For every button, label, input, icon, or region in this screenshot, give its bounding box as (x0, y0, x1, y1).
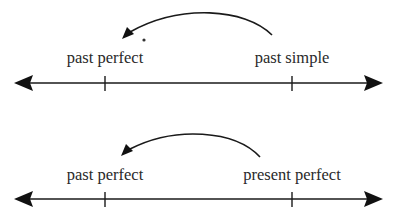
backshift-arrow-curve (130, 134, 260, 157)
label-past-perfect: past perfect (67, 165, 144, 184)
timeline-bottom: past perfect present perfect (14, 134, 383, 207)
stray-mark (142, 38, 145, 41)
backshift-arrowhead-icon (121, 144, 133, 156)
timeline-top: past perfect past simple (14, 13, 383, 91)
tense-timeline-diagrams: past perfect past simple past perfect pr… (0, 0, 399, 216)
label-past-perfect: past perfect (67, 48, 144, 67)
backshift-arrow-curve (130, 13, 272, 35)
label-past-simple: past simple (255, 48, 330, 67)
backshift-arrowhead-icon (122, 27, 134, 39)
label-present-perfect: present perfect (243, 165, 341, 184)
